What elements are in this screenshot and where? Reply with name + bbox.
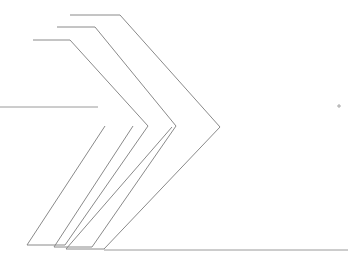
drawing-canvas bbox=[0, 0, 348, 255]
chevron-drawing bbox=[0, 0, 348, 255]
canvas-background bbox=[0, 0, 348, 255]
